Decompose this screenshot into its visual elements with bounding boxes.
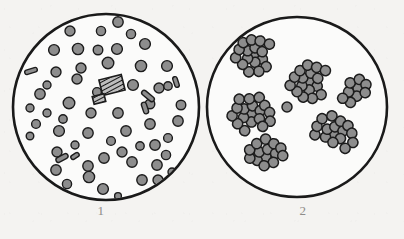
dispersed-particle [43, 81, 51, 89]
dispersed-particle [127, 157, 137, 167]
dispersed-particle [121, 126, 131, 136]
dispersed-particle [135, 60, 146, 71]
dispersed-particle [62, 179, 71, 188]
dispersed-particle [72, 74, 82, 84]
dispersed-particle [86, 108, 96, 118]
dispersed-particle [140, 39, 151, 50]
panel-1-canvas [0, 0, 202, 202]
dispersed-particle [126, 29, 135, 38]
dispersed-particle [51, 67, 61, 77]
isolated-particle [282, 102, 292, 112]
dispersed-particle [35, 89, 45, 99]
panel-2: 2 [202, 0, 404, 239]
dispersed-particle [161, 150, 170, 159]
figure-root: 1 2 [0, 0, 404, 239]
dispersed-particle [102, 57, 114, 69]
dispersed-particle [152, 160, 162, 170]
dispersed-particle [162, 61, 173, 72]
dispersed-particle [72, 43, 83, 54]
dispersed-particle [176, 100, 186, 110]
dispersed-particle [96, 26, 105, 35]
dispersed-particle [112, 44, 123, 55]
dispersed-particle [113, 108, 123, 118]
dispersed-particle [117, 147, 127, 157]
hatched-block [92, 94, 106, 105]
dispersed-particle [83, 161, 93, 171]
dispersed-particle [113, 17, 123, 27]
dispersed-particle [63, 97, 75, 109]
dispersed-particle [59, 115, 67, 123]
dispersed-particle [145, 119, 155, 129]
dispersed-particle [26, 132, 34, 140]
dispersed-particle [107, 137, 116, 146]
dispersed-particle [173, 116, 183, 126]
dispersed-particle [150, 140, 160, 150]
dispersed-particle [99, 153, 109, 163]
dispersed-particle [136, 142, 144, 150]
dispersed-particle [26, 104, 34, 112]
dispersed-particle [83, 171, 94, 182]
dispersed-particle [32, 120, 41, 129]
dispersed-particle [54, 126, 65, 137]
dispersed-particle [71, 141, 79, 149]
dispersed-particle [164, 134, 173, 143]
dispersed-particle [76, 63, 86, 73]
panel-1-label: 1 [0, 203, 202, 219]
dispersed-particle [93, 45, 103, 55]
dispersed-particle [137, 175, 147, 185]
dispersed-particle [128, 80, 139, 91]
panel-2-canvas [202, 0, 404, 202]
petri-dish-outline-1 [13, 14, 199, 200]
dispersed-particle [83, 128, 93, 138]
dispersed-particle [65, 26, 75, 36]
panel-2-label: 2 [202, 203, 404, 219]
panel-1: 1 [0, 0, 202, 239]
dispersed-particle [98, 184, 109, 195]
dispersed-particle [164, 82, 172, 90]
dispersed-particle [154, 83, 164, 93]
dispersed-particle [51, 165, 61, 175]
dispersed-particle [49, 45, 60, 56]
dispersed-particle [43, 109, 51, 117]
